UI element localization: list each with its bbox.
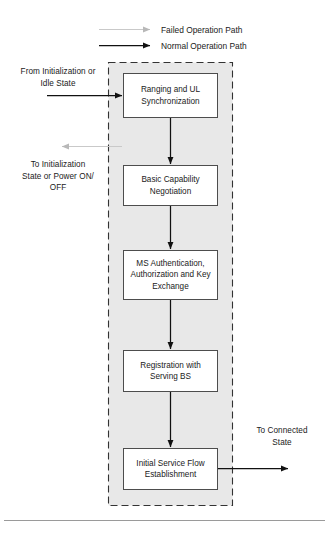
process-node-ranging-line-2: Synchronization xyxy=(141,97,199,106)
process-node-basic-capability-line-2: Negotiation xyxy=(150,187,191,196)
entry-label-line-2: Idle State xyxy=(6,78,110,90)
process-node-basic-capability[interactable]: Basic Capability Negotiation xyxy=(123,165,218,206)
failure-exit-label: To Initialization State or Power ON/ OFF xyxy=(6,159,110,194)
process-node-registration-line-2: Serving BS xyxy=(150,372,191,381)
entry-label: From Initialization or Idle State xyxy=(6,66,110,89)
failure-exit-label-line-1: To Initialization xyxy=(6,159,110,171)
process-node-ranging-label: Ranging and UL Synchronization xyxy=(124,84,217,107)
process-node-registration[interactable]: Registration with Serving BS xyxy=(123,350,218,392)
success-exit-label-line-2: State xyxy=(240,437,324,449)
process-node-registration-line-1: Registration with xyxy=(140,361,201,370)
process-node-ranging-line-1: Ranging and UL xyxy=(141,85,200,94)
process-node-initial-service-flow-label: Initial Service Flow Establishment xyxy=(124,458,217,481)
process-node-ms-authentication[interactable]: MS Authentication, Authorization and Key… xyxy=(123,250,218,300)
entry-label-line-1: From Initialization or xyxy=(6,66,110,78)
process-node-basic-capability-line-1: Basic Capability xyxy=(141,175,199,184)
flowchart-diagram: Failed Operation Path Normal Operation P… xyxy=(0,0,329,533)
process-node-ms-authentication-line-2: Authorization and Key xyxy=(130,270,210,279)
process-node-ms-authentication-line-1: MS Authentication, xyxy=(136,259,204,268)
success-exit-label-line-1: To Connected xyxy=(240,425,324,437)
process-node-initial-service-flow-line-2: Establishment xyxy=(145,470,196,479)
process-node-ms-authentication-label: MS Authentication, Authorization and Key… xyxy=(124,258,217,293)
process-node-initial-service-flow[interactable]: Initial Service Flow Establishment xyxy=(123,448,218,490)
process-node-registration-label: Registration with Serving BS xyxy=(124,360,217,383)
process-node-basic-capability-label: Basic Capability Negotiation xyxy=(124,174,217,197)
success-exit-label: To Connected State xyxy=(240,425,324,448)
process-node-ranging[interactable]: Ranging and UL Synchronization xyxy=(123,73,218,118)
process-node-ms-authentication-line-3: Exchange xyxy=(152,282,188,291)
legend-label-failed-operation-path: Failed Operation Path xyxy=(161,25,242,35)
failure-exit-label-line-3: OFF xyxy=(6,182,110,194)
legend-label-normal-operation-path: Normal Operation Path xyxy=(161,41,247,51)
process-node-initial-service-flow-line-1: Initial Service Flow xyxy=(136,459,204,468)
failure-exit-label-line-2: State or Power ON/ xyxy=(6,171,110,183)
